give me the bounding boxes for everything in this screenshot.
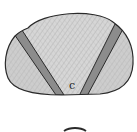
lower-shape-edge — [64, 128, 86, 131]
region-label-c: c — [69, 79, 75, 92]
cross-section-diagram: c — [0, 0, 137, 132]
